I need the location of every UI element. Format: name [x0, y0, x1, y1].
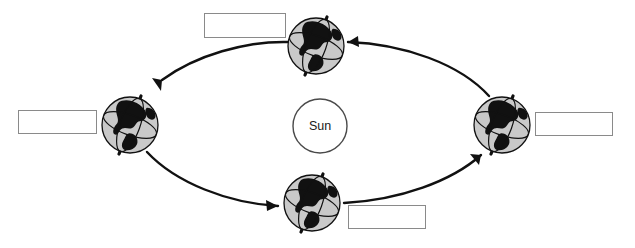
arrowhead-to-top-earth [348, 36, 359, 47]
answer-box-left[interactable] [18, 110, 97, 134]
earth-landmass [286, 16, 345, 77]
sun: Sun [293, 99, 347, 153]
answer-box-right[interactable] [535, 112, 613, 136]
arrowhead-to-bottom-earth [266, 200, 278, 211]
earth-top [286, 16, 345, 77]
earth-right [472, 95, 531, 156]
answer-box-top[interactable] [204, 13, 286, 38]
earth-landmass [472, 95, 531, 156]
answer-box-bottom[interactable] [348, 205, 426, 229]
earth-landmass [282, 173, 341, 234]
arrowhead-to-left-earth [152, 78, 162, 91]
earth-landmass [100, 95, 159, 156]
sun-label: Sun [309, 119, 331, 133]
earth-left [100, 95, 159, 156]
orbit-diagram: Sun [0, 0, 635, 248]
earth-bottom [282, 173, 341, 234]
